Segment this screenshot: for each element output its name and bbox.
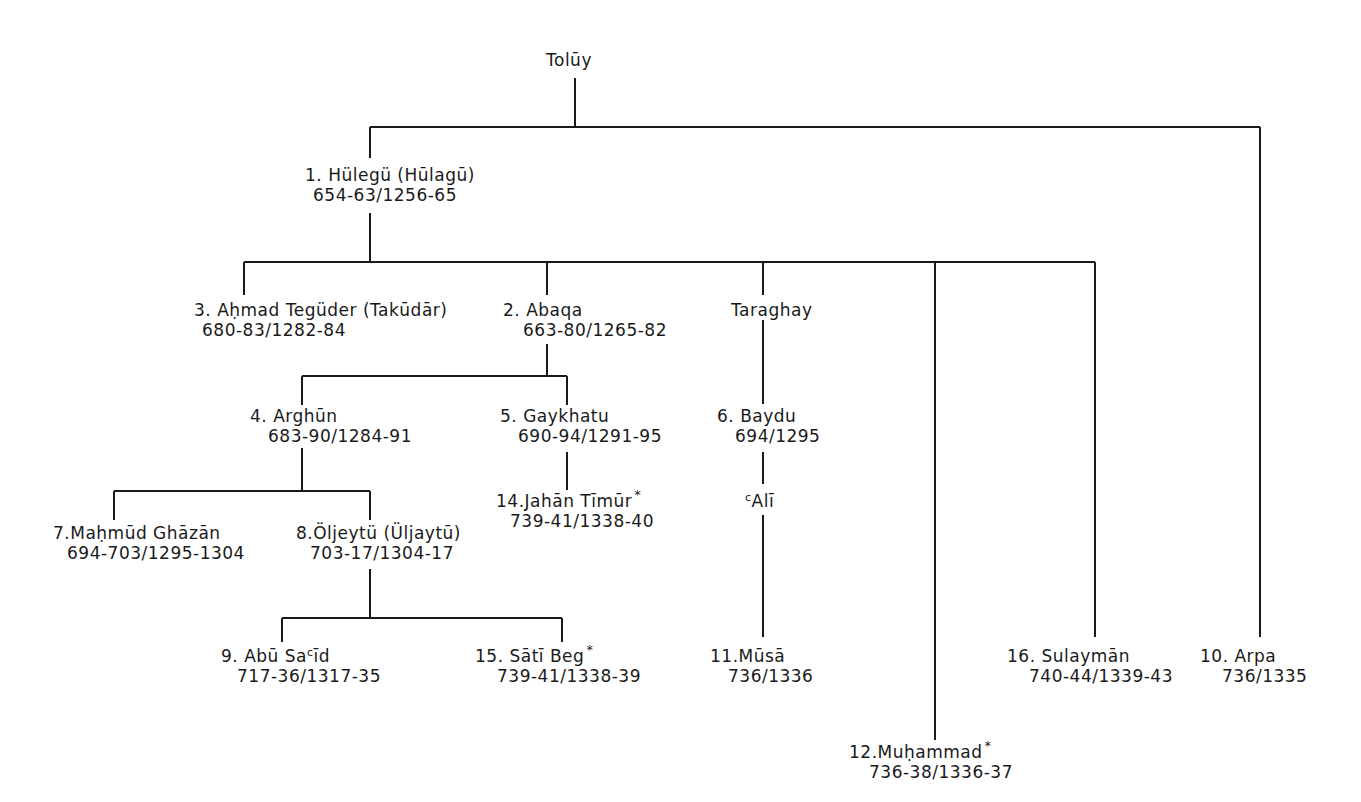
node-dates: 736/1336 xyxy=(710,666,813,686)
node-number: 16. xyxy=(1007,646,1036,666)
node-dates: 740-44/1339-43 xyxy=(1007,666,1173,686)
node-name: 2. Abaqa xyxy=(503,300,667,320)
node-oljeytu: 8.Öljeytü (Üljaytū) 703-17/1304-17 xyxy=(296,523,461,563)
node-name: 14.Jahān Tīmūr* xyxy=(496,491,654,511)
node-dates: 680-83/1282-84 xyxy=(194,320,447,340)
node-dates: 739-41/1338-40 xyxy=(496,511,654,531)
node-name: 16. Sulaymān xyxy=(1007,646,1173,666)
node-dates: 717-36/1317-35 xyxy=(221,666,381,686)
asterisk-marker: * xyxy=(634,487,641,502)
node-name: 8.Öljeytü (Üljaytū) xyxy=(296,523,461,543)
asterisk-marker: * xyxy=(985,738,992,753)
node-dates: 690-94/1291-95 xyxy=(500,426,662,446)
node-dates: 663-80/1265-82 xyxy=(503,320,667,340)
node-number: 9. xyxy=(221,646,238,666)
node-number: 6. xyxy=(717,406,734,426)
node-gaykhatu: 5. Gaykhatu 690-94/1291-95 xyxy=(500,406,662,446)
node-ahmad-teguder: 3. Aḥmad Tegüder (Takūdār) 680-83/1282-8… xyxy=(194,300,447,340)
asterisk-marker: * xyxy=(586,642,593,657)
node-hulegu: 1. Hülegü (Hūlagū) 654-63/1256-65 xyxy=(305,165,475,205)
node-name: 9. Abū Sacīd xyxy=(221,646,381,666)
node-number: 10. xyxy=(1200,646,1229,666)
node-sulayman: 16. Sulaymān 740-44/1339-43 xyxy=(1007,646,1173,686)
node-name: 5. Gaykhatu xyxy=(500,406,662,426)
node-baydu: 6. Baydu 694/1295 xyxy=(717,406,820,446)
node-dates: 654-63/1256-65 xyxy=(305,185,475,205)
ayn-marker: c xyxy=(307,646,314,659)
node-taraghay: Taraghay xyxy=(731,300,812,320)
node-abu-said: 9. Abū Sacīd 717-36/1317-35 xyxy=(221,646,381,686)
node-dates: 703-17/1304-17 xyxy=(296,543,461,563)
node-dates: 739-41/1338-39 xyxy=(475,666,641,686)
node-name: 12.Muḥammad* xyxy=(849,742,1013,762)
node-dates: 736/1335 xyxy=(1200,666,1307,686)
node-abaqa: 2. Abaqa 663-80/1265-82 xyxy=(503,300,667,340)
node-name: 6. Baydu xyxy=(717,406,820,426)
node-number: 5. xyxy=(500,406,517,426)
node-dates: 683-90/1284-91 xyxy=(250,426,412,446)
node-number: 4. xyxy=(250,406,267,426)
node-name: Tolūy xyxy=(546,50,592,70)
node-number: 1. xyxy=(305,165,322,185)
node-name: 7.Maḥmūd Ghāzān xyxy=(53,523,245,543)
node-number: 8. xyxy=(296,523,313,543)
node-number: 12. xyxy=(849,742,878,762)
node-name: 10. Arpa xyxy=(1200,646,1307,666)
node-dates: 694-703/1295-1304 xyxy=(53,543,245,563)
node-dates: 694/1295 xyxy=(717,426,820,446)
node-jahan-timur: 14.Jahān Tīmūr* 739-41/1338-40 xyxy=(496,491,654,531)
node-musa: 11.Mūsā 736/1336 xyxy=(710,646,813,686)
node-name: 15. Sātī Beg* xyxy=(475,646,641,666)
node-name: 1. Hülegü (Hūlagū) xyxy=(305,165,475,185)
node-arpa: 10. Arpa 736/1335 xyxy=(1200,646,1307,686)
node-number: 3. xyxy=(194,300,211,320)
node-name: 11.Mūsā xyxy=(710,646,813,666)
node-sati-beg: 15. Sātī Beg* 739-41/1338-39 xyxy=(475,646,641,686)
ayn-marker: c xyxy=(745,491,752,504)
node-number: 7. xyxy=(53,523,70,543)
node-ali: cAlī xyxy=(745,491,774,511)
node-arghun: 4. Arghūn 683-90/1284-91 xyxy=(250,406,412,446)
node-name: 3. Aḥmad Tegüder (Takūdār) xyxy=(194,300,447,320)
node-number: 2. xyxy=(503,300,520,320)
node-name: cAlī xyxy=(745,491,774,511)
node-muhammad: 12.Muḥammad* 736-38/1336-37 xyxy=(849,742,1013,782)
node-number: 15. xyxy=(475,646,504,666)
node-number: 14. xyxy=(496,491,525,511)
node-dates: 736-38/1336-37 xyxy=(849,762,1013,782)
node-number: 11. xyxy=(710,646,739,666)
node-toluy: Tolūy xyxy=(546,50,592,70)
node-name: Taraghay xyxy=(731,300,812,320)
node-mahmud-ghazan: 7.Maḥmūd Ghāzān 694-703/1295-1304 xyxy=(53,523,245,563)
node-name: 4. Arghūn xyxy=(250,406,412,426)
